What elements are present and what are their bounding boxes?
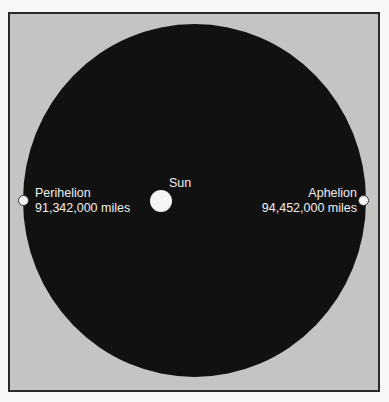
aphelion-title: Aphelion <box>262 186 357 201</box>
sun-label: Sun <box>169 176 191 191</box>
aphelion-label: Aphelion 94,452,000 miles <box>262 186 357 216</box>
sun-icon <box>150 190 172 212</box>
perihelion-point-icon <box>18 195 29 206</box>
perihelion-label: Perihelion 91,342,000 miles <box>35 186 130 216</box>
aphelion-distance: 94,452,000 miles <box>262 201 357 216</box>
aphelion-point-icon <box>358 195 369 206</box>
perihelion-title: Perihelion <box>35 186 130 201</box>
perihelion-distance: 91,342,000 miles <box>35 201 130 216</box>
